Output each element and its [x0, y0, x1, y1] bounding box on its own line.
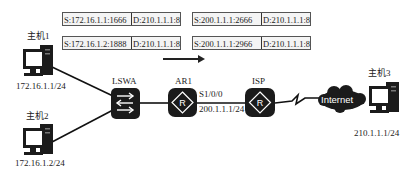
destination-address: D:210.1.1.1:80 [262, 37, 310, 49]
source-address: S:172.16.1.2:1888 [63, 37, 132, 49]
host1-pc-icon [22, 43, 56, 79]
isp-device: R [245, 88, 275, 117]
router1-interface: S1/0/0 [199, 90, 223, 99]
router1-device: R [168, 88, 197, 117]
host3-ip: 210.1.1.1/24 [354, 129, 399, 138]
isp-label: ISP [252, 77, 265, 86]
router-icon: R [168, 88, 197, 117]
nat-entry-after-2: S:200.1.1.1:2966 D:210.1.1.1:80 [192, 36, 311, 50]
host3-label: 主机3 [368, 69, 391, 78]
nat-entry-after-1: S:200.1.1.1:2666 D:210.1.1.1:80 [192, 12, 311, 26]
computer-icon [368, 80, 402, 116]
source-address: S:172.16.1.1:1666 [63, 13, 132, 25]
router-icon: R [245, 88, 275, 117]
destination-address: D:210.1.1.1:80 [132, 37, 180, 49]
switch-label: LSWA [112, 77, 137, 86]
router1-label: AR1 [175, 77, 192, 86]
nat-entry-before-2: S:172.16.1.2:1888 D:210.1.1.1:80 [62, 36, 181, 50]
svg-text:R: R [257, 98, 264, 108]
host2-ip: 172.16.1.2/24 [15, 159, 65, 168]
switch-icon [111, 88, 140, 119]
source-address: S:200.1.1.1:2666 [193, 13, 262, 25]
switch-device [111, 88, 140, 119]
router1-ip: 200.1.1.1/24 [199, 105, 244, 114]
host1-label: 主机1 [27, 32, 50, 41]
host3-pc-icon [368, 80, 402, 116]
computer-icon [22, 43, 56, 79]
svg-text:R: R [179, 98, 186, 108]
internet-cloud: Internet [316, 84, 368, 114]
host2-pc-icon [22, 122, 56, 158]
destination-address: D:210.1.1.1:80 [132, 13, 180, 25]
nat-entry-before-1: S:172.16.1.1:1666 D:210.1.1.1:80 [62, 12, 181, 26]
source-address: S:200.1.1.1:2966 [193, 37, 262, 49]
host2-label: 主机2 [26, 112, 49, 121]
internet-label: Internet [321, 94, 353, 105]
host1-ip: 172.16.1.1/24 [16, 82, 66, 91]
computer-icon [22, 122, 56, 158]
destination-address: D:210.1.1.1:80 [262, 13, 310, 25]
